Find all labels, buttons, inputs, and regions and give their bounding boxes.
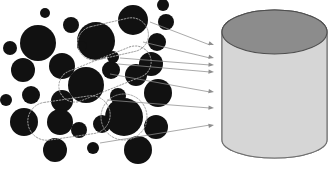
particle — [0, 94, 12, 106]
particle — [63, 17, 79, 33]
particle — [102, 61, 120, 79]
particle — [157, 0, 169, 11]
cylinder-top-face — [222, 10, 327, 54]
particle-cluster — [0, 0, 174, 164]
arrow-head — [208, 89, 214, 94]
arrow-head — [208, 62, 214, 67]
particle — [40, 8, 50, 18]
particle — [124, 136, 152, 164]
particle — [20, 25, 56, 61]
arrow-shaft — [120, 58, 210, 65]
particle — [118, 5, 148, 35]
particle — [68, 67, 104, 103]
particle — [43, 138, 67, 162]
particle — [10, 108, 38, 136]
particle — [148, 33, 166, 51]
arrow-head — [208, 55, 214, 60]
particle — [3, 41, 17, 55]
arrow-head — [208, 105, 214, 110]
particle — [47, 109, 73, 135]
particle — [87, 142, 99, 154]
arrow-head — [208, 41, 215, 47]
arrow-head — [208, 123, 214, 128]
figure-root — [0, 0, 335, 169]
particle — [11, 58, 35, 82]
diagram-canvas — [0, 0, 335, 169]
particle — [22, 86, 40, 104]
particle — [105, 98, 143, 136]
particle — [144, 79, 172, 107]
representative-volume-cylinder — [220, 8, 330, 163]
arrow-head — [208, 69, 214, 74]
particle — [158, 14, 174, 30]
